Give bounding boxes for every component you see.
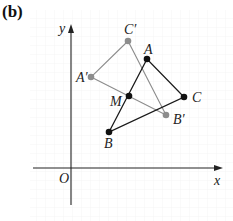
point-b-prime [163, 112, 170, 119]
label-m: M [109, 94, 123, 109]
label-b-prime: B′ [173, 112, 186, 127]
label-c-prime: C′ [124, 22, 137, 37]
origin-label: O [59, 171, 69, 186]
point-a-prime [88, 74, 95, 81]
label-a-prime: A′ [75, 70, 89, 85]
label-a: A [143, 42, 153, 57]
point-c [181, 94, 188, 101]
x-axis-label: x [213, 173, 221, 188]
label-b: B [104, 136, 113, 151]
label-c: C [192, 90, 202, 105]
grid-background [30, 10, 233, 221]
point-b [106, 129, 113, 136]
y-axis-label: y [57, 21, 66, 36]
point-m [126, 93, 133, 100]
coordinate-diagram: x y O A′ B′ C′ A B C M [0, 0, 233, 221]
point-c-prime [125, 38, 132, 45]
